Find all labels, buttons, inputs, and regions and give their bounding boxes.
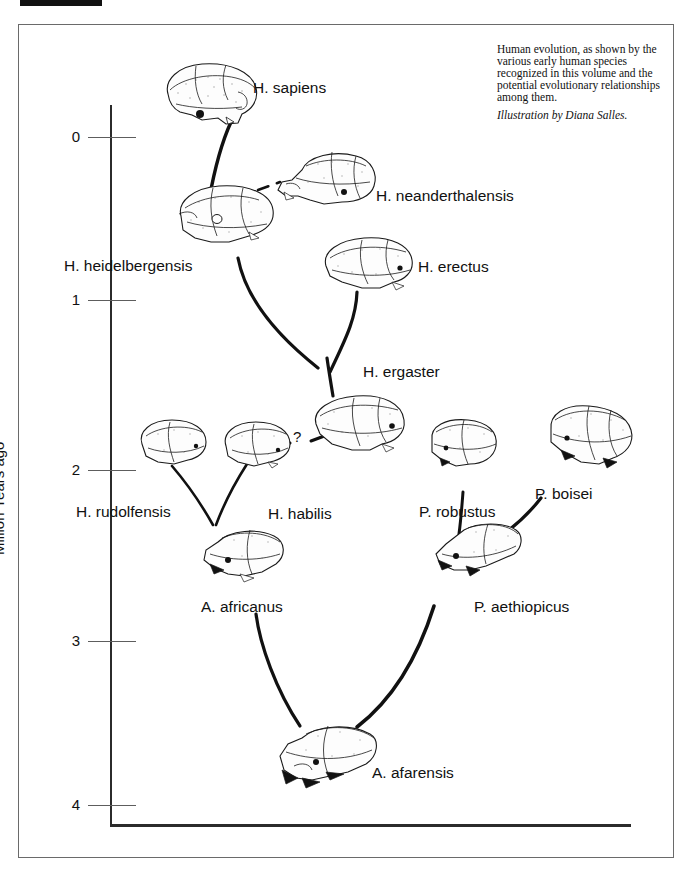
y-tick-label-0: 0 <box>60 128 80 145</box>
label-a-afarensis: A. afarensis <box>372 764 454 782</box>
uncertainty-question-mark: ? <box>293 428 301 445</box>
label-h-ergaster: H. ergaster <box>363 363 440 381</box>
label-h-neanderthalensis: H. neanderthalensis <box>376 187 514 205</box>
skull-p-aethiopicus <box>430 520 524 582</box>
skull-a-afarensis <box>272 722 382 790</box>
y-tick-4 <box>88 805 136 806</box>
caption-text: Human evolution, as shown by the various… <box>497 43 660 103</box>
skull-h-neanderthalensis <box>272 148 382 210</box>
y-tick-label-3: 3 <box>60 632 80 649</box>
skull-a-africanus <box>196 524 288 586</box>
y-tick-label-2: 2 <box>60 461 80 478</box>
label-p-aethiopicus: P. aethiopicus <box>474 598 569 616</box>
skull-h-heidelbergensis <box>163 180 281 250</box>
y-tick-0 <box>88 137 136 138</box>
skull-p-boisei <box>545 400 641 472</box>
label-a-africanus: A. africanus <box>201 598 283 616</box>
label-h-habilis: H. habilis <box>268 505 332 523</box>
label-h-sapiens: H. sapiens <box>253 79 326 97</box>
y-tick-2 <box>88 470 136 471</box>
skull-h-erectus <box>318 232 418 292</box>
scan-artifact-bar <box>20 0 102 6</box>
label-p-boisei: P. boisei <box>535 485 592 503</box>
skull-h-habilis <box>218 418 294 470</box>
label-h-rudolfensis: H. rudolfensis <box>76 503 171 521</box>
y-axis-line <box>110 105 112 827</box>
y-tick-3 <box>88 641 136 642</box>
y-axis-title: Million Years ago <box>0 395 7 555</box>
label-h-heidelbergensis: H. heidelbergensis <box>64 257 192 275</box>
caption-credit: Illustration by Diana Salles. <box>497 110 665 122</box>
skull-h-ergaster <box>306 392 410 454</box>
skull-h-rudolfensis <box>136 416 212 468</box>
y-tick-1 <box>88 300 136 301</box>
x-axis-line <box>110 824 631 827</box>
y-tick-label-4: 4 <box>60 796 80 813</box>
label-h-erectus: H. erectus <box>418 258 489 276</box>
y-tick-label-1: 1 <box>60 291 80 308</box>
skull-p-robustus <box>424 414 504 472</box>
label-p-robustus: P. robustus <box>419 503 495 521</box>
figure-caption: Human evolution, as shown by the various… <box>497 44 665 121</box>
